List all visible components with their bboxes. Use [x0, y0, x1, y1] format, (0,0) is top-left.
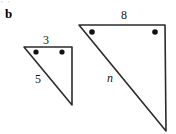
small-triangle-hypotenuse-label: 5 — [32, 73, 44, 85]
large-triangle-angle-marker-left — [89, 29, 95, 35]
large-triangle-angle-marker-right — [152, 29, 158, 35]
similar-triangles-figure — [0, 0, 176, 134]
large-triangle-group — [79, 25, 166, 131]
small-triangle-angle-marker-left — [33, 49, 38, 54]
large-triangle-outline — [79, 25, 166, 131]
small-triangle-top-side-label: 3 — [40, 34, 52, 46]
small-triangle-angle-marker-right — [59, 49, 64, 54]
large-triangle-top-side-label: 8 — [118, 9, 130, 21]
figure-screenshot: 1-4 b 3 5 8 n — [0, 0, 176, 134]
large-triangle-hypotenuse-label: n — [104, 72, 116, 84]
